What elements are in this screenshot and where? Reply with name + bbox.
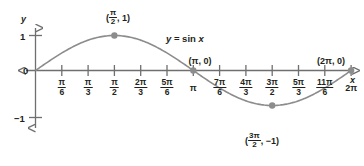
fraction: 11π6 (316, 78, 334, 96)
x-tick-label-pi: π (190, 83, 197, 93)
y-tick-label-1: 1 (20, 31, 25, 42)
fraction: 5π6 (160, 78, 173, 96)
point-max (111, 32, 117, 38)
point-min (269, 102, 275, 108)
annotation-minimum-point: (3π2, −1) (245, 133, 279, 150)
annotation-maximum-point: (π2, 1) (106, 10, 130, 27)
fraction: π2 (110, 78, 119, 96)
point-pi (190, 67, 196, 73)
x-tick-label: 4π3 (239, 79, 252, 97)
x-tick-label: 5π6 (160, 79, 173, 97)
graph-canvas (0, 0, 364, 166)
y-axis-label: y (21, 14, 26, 24)
fraction: 3π2 (248, 132, 261, 149)
fraction: 7π6 (213, 78, 226, 96)
coordinate-rest: , 1) (117, 13, 130, 23)
fraction: 5π3 (292, 78, 305, 96)
annotation-zero-point-pi: (π, 0) (189, 56, 212, 66)
fraction: π6 (58, 78, 67, 96)
coordinate-rest: , −1) (261, 136, 279, 146)
fraction: 3π2 (266, 78, 279, 96)
equation-x: x (199, 33, 204, 44)
x-tick-label-two-pi: 2π (345, 83, 357, 93)
x-tick-label: 5π3 (292, 79, 305, 97)
sine-graph-figure: y x 1 0 −1 π6 π3 π2 2π3 5π6 π 7π6 4π3 3π… (0, 0, 364, 166)
fraction: 2π3 (134, 78, 147, 96)
x-tick-label: π6 (58, 79, 67, 97)
y-tick-label-minus-1: −1 (14, 113, 25, 124)
x-tick-label: 2π3 (134, 79, 147, 97)
x-tick-label: π3 (84, 79, 93, 97)
x-tick-label: 11π6 (316, 79, 334, 97)
y-tick-label-0: 0 (23, 65, 28, 76)
fraction: π3 (84, 78, 93, 96)
x-tick-label: 7π6 (213, 79, 226, 97)
point-two-pi (348, 67, 354, 73)
equation-operator: = sin (171, 33, 198, 44)
equation-label: y = sin x (166, 33, 204, 44)
x-tick-label: π2 (110, 79, 119, 97)
fraction: 4π3 (239, 78, 252, 96)
x-tick-label: 3π2 (266, 79, 279, 97)
annotation-zero-point-two-pi: (2π, 0) (317, 56, 345, 66)
fraction: π2 (109, 9, 117, 26)
